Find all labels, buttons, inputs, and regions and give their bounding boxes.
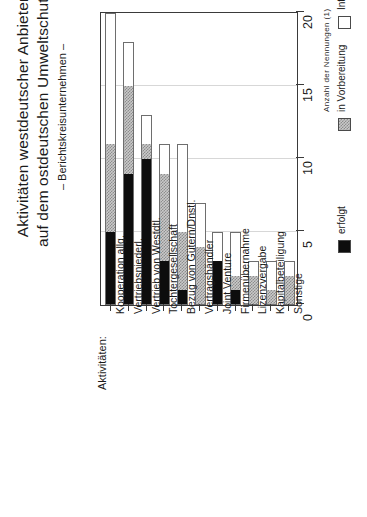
category-tick — [110, 304, 111, 311]
chart-title-line-2: auf dem ostdeutschen Umweltschutzmarkt — [33, 0, 53, 247]
chart-title-line-1: Aktivitäten westdeutscher Anbieter — [13, 0, 33, 247]
value-tick-label-10: 10 — [301, 161, 315, 175]
bar-segment-in-vorbereitung — [141, 144, 152, 159]
black-solid-swatch — [338, 240, 351, 253]
gray-hatched-swatch — [338, 118, 351, 131]
category-label-10: Sonstige — [292, 273, 304, 314]
category-axis-title: Aktivitäten: — [96, 336, 108, 390]
chart-title-block: Aktivitäten westdeutscher Anbieter auf d… — [13, 0, 71, 247]
bar-segment-interesse — [123, 42, 134, 86]
value-tick — [296, 230, 304, 231]
category-tick — [252, 304, 253, 311]
bar-segment-interesse — [159, 144, 170, 173]
bar-segment-in-vorbereitung — [123, 86, 134, 174]
category-label-7: Firmenübernahme — [239, 228, 251, 314]
chart-legend: erfolgtin VorbereitungInteresse — [316, 0, 367, 360]
category-axis-labels: Kooperation allg.Vertriebsniederl.Vertri… — [92, 314, 322, 514]
plot-area — [100, 12, 298, 306]
value-tick — [296, 157, 304, 158]
value-tick-label-5: 5 — [301, 241, 315, 248]
category-tick — [217, 304, 218, 311]
value-tick — [296, 11, 304, 12]
category-label-1: Vertriebsniederl. — [132, 238, 144, 314]
category-tick — [270, 304, 271, 311]
chart-subtitle: – Berichtskreisunternehmen – — [54, 0, 71, 247]
category-tick — [146, 304, 147, 311]
category-tick — [181, 304, 182, 311]
bar-segment-in-vorbereitung — [105, 144, 116, 232]
category-tick — [288, 304, 289, 311]
category-label-5: Vertragshändler — [203, 240, 215, 314]
category-label-6: Joint Venture — [221, 253, 233, 314]
category-tick — [128, 304, 129, 311]
category-label-3: Tochtergesellschaft — [167, 224, 179, 314]
value-tick-label-20: 20 — [301, 15, 315, 29]
category-label-8: Lizenzvergabe — [256, 246, 268, 314]
legend-label-1: in Vorbereitung — [336, 45, 347, 112]
bar-segment-interesse — [141, 115, 152, 144]
category-tick — [199, 304, 200, 311]
value-tick-label-15: 15 — [301, 88, 315, 102]
value-axis: 05101520 — [296, 12, 312, 304]
category-label-9: Kapitalbeteiligung — [274, 231, 286, 314]
legend-label-0: erfolgt — [336, 206, 347, 234]
category-tick — [163, 304, 164, 311]
category-tick — [235, 304, 236, 311]
white-empty-swatch — [338, 16, 351, 29]
category-label-4: Bezug von Gütern/Dnstl. — [185, 200, 197, 314]
bar-segment-interesse — [105, 13, 116, 144]
category-label-0: Kooperation allg. — [114, 235, 126, 314]
category-label-2: Vertrieb von Westdtl. — [150, 217, 162, 314]
value-tick — [296, 84, 304, 85]
legend-label-2: Interesse — [336, 0, 347, 10]
